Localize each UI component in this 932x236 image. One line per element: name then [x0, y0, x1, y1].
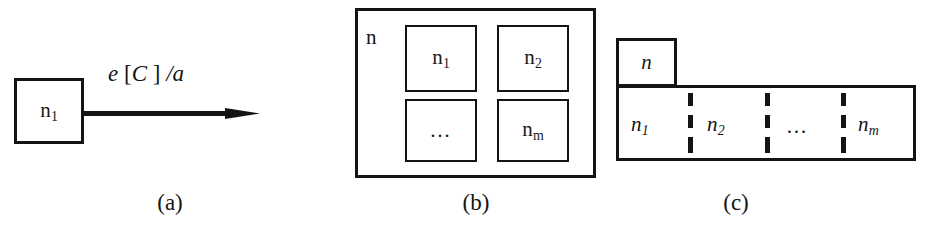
panel-b-caption: (b) [426, 190, 526, 216]
figure-canvas: n1 e [C ] /a (a) n n1 n2 … nm (b) n n1 n… [0, 0, 932, 236]
edge-label-action: /a [166, 61, 184, 86]
panel-b-substate-2-label: n2 [524, 45, 542, 72]
panel-b-substate-m-label: nm [522, 117, 543, 144]
edge-label-close-bracket: ] [153, 61, 161, 86]
panel-b-substate-ellipsis-label: … [430, 118, 453, 143]
panel-c-caption: (c) [686, 190, 786, 216]
panel-c-name-tab: n [616, 38, 677, 87]
panel-c-tab-label: n [641, 50, 652, 75]
edge-label-condition: C [132, 61, 147, 86]
panel-a-source-node: n1 [14, 78, 84, 144]
edge-label-open-bracket: [ [124, 61, 132, 86]
panel-b-outer-label: n [366, 27, 377, 48]
panel-b-substate-1: n1 [405, 25, 477, 92]
panel-c-region-ellipsis-label: … [786, 116, 809, 137]
panel-a-edge-label: e [C ] /a [108, 62, 184, 85]
panel-c-divider-3 [841, 93, 846, 153]
panel-a-transition-arrow [84, 108, 260, 119]
panel-b-substate-ellipsis: … [405, 99, 477, 162]
panel-b-substate-1-label: n1 [432, 45, 450, 72]
panel-c-region-1-label: n1 [631, 114, 649, 138]
panel-c-divider-2 [765, 93, 770, 153]
panel-b-substate-m: nm [497, 99, 569, 162]
panel-c-region-m-label: nm [858, 114, 879, 138]
panel-c-region-2-label: n2 [707, 114, 725, 138]
panel-b-substate-2: n2 [497, 25, 569, 92]
edge-label-event: e [108, 61, 118, 86]
panel-a-source-node-label: n1 [40, 98, 58, 125]
panel-a-caption: (a) [120, 190, 220, 216]
panel-c-divider-1 [688, 93, 693, 153]
